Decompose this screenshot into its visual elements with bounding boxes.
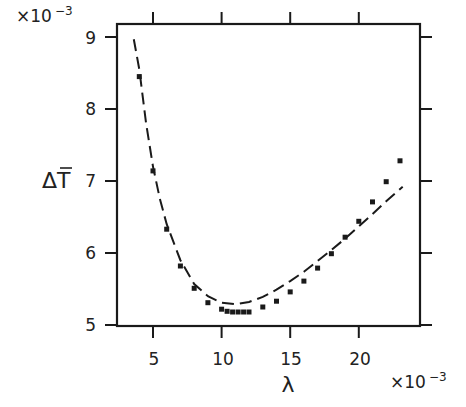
y-tick-labels: 5 6 7 8 9 xyxy=(85,28,96,335)
data-point-marker xyxy=(219,307,224,312)
data-point-marker xyxy=(260,305,265,310)
data-point-marker xyxy=(370,199,375,204)
x-multiplier: ×10−3 xyxy=(390,370,447,392)
y-axis-label: ΔT xyxy=(42,168,72,193)
data-point-marker xyxy=(137,74,142,79)
x-tick-5: 5 xyxy=(149,349,160,369)
data-point-marker xyxy=(315,266,320,271)
x-tick-labels: 5 10 15 20 xyxy=(149,349,371,369)
data-point-marker xyxy=(151,168,156,173)
data-point-marker xyxy=(178,264,183,269)
y-tick-6: 6 xyxy=(85,243,96,263)
y-axis-label-text: ΔT xyxy=(42,168,71,193)
y-tick-7: 7 xyxy=(85,171,96,191)
x-tick-10: 10 xyxy=(212,349,234,369)
data-point-marker xyxy=(343,235,348,240)
y-tick-8: 8 xyxy=(85,99,96,119)
data-point-marker xyxy=(288,289,293,294)
plot-frame xyxy=(117,24,420,326)
data-point-marker xyxy=(398,158,403,163)
data-point-marker xyxy=(247,310,252,315)
chart: 5 6 7 8 9 5 10 15 20 λ ΔT ×10−3 ×10−3 xyxy=(0,0,466,407)
data-point-marker xyxy=(164,227,169,232)
data-point-marker xyxy=(301,279,306,284)
x-tick-15: 15 xyxy=(280,349,302,369)
data-point-marker xyxy=(384,179,389,184)
data-points xyxy=(137,74,403,314)
y-multiplier: ×10−3 xyxy=(16,4,73,26)
data-point-marker xyxy=(205,300,210,305)
data-point-marker xyxy=(274,299,279,304)
data-point-marker xyxy=(225,309,230,314)
data-point-marker xyxy=(329,251,334,256)
data-point-marker xyxy=(241,310,246,315)
x-axis-label: λ xyxy=(281,372,294,397)
data-point-marker xyxy=(236,310,241,315)
x-tick-20: 20 xyxy=(349,349,371,369)
data-point-marker xyxy=(230,310,235,315)
y-tick-5: 5 xyxy=(85,315,96,335)
fit-curve-dashed xyxy=(134,39,403,304)
data-point-marker xyxy=(356,219,361,224)
y-tick-9: 9 xyxy=(85,28,96,48)
data-point-marker xyxy=(192,286,197,291)
